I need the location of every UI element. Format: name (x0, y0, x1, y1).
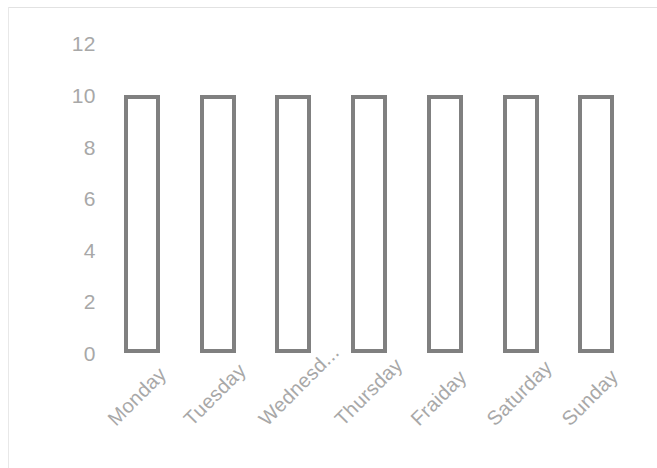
x-axis-tick-label: Monday (104, 363, 170, 429)
x-axis-tick-label: Sunday (558, 366, 621, 429)
x-axis-tick-label: Tuesday (180, 360, 249, 429)
x-axis-tick-label: Fraiday (407, 366, 470, 429)
x-axis-tick-label: Wednesd... (255, 342, 343, 430)
x-axis: MondayTuesdayWednesd...ThursdayFraidaySa… (0, 0, 657, 468)
x-axis-tick-label: Saturday (483, 357, 555, 429)
bar-chart: 024681012 MondayTuesdayWednesd...Thursda… (0, 0, 657, 468)
x-axis-tick-label: Thursday (331, 354, 406, 429)
